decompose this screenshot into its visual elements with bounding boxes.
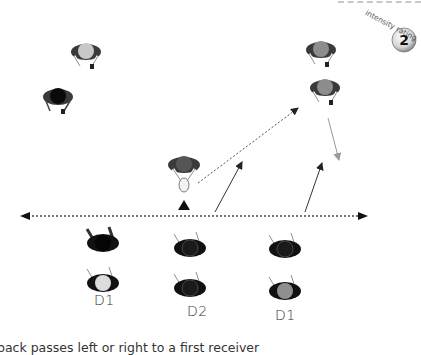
attacker-figure bbox=[306, 41, 336, 67]
run-arrow-right bbox=[305, 163, 322, 212]
ball-carrier-figure bbox=[168, 156, 200, 192]
defender-figure bbox=[269, 233, 301, 258]
defender-figure bbox=[174, 232, 206, 257]
attacker-figure bbox=[310, 79, 340, 105]
defender-figure bbox=[87, 267, 119, 292]
support-run-arrow bbox=[328, 118, 339, 160]
defender-figure bbox=[87, 227, 119, 252]
attacker-figure bbox=[43, 88, 73, 114]
defender-figure bbox=[269, 275, 301, 300]
defender-label-d1-left: D1 bbox=[94, 292, 115, 308]
defender-label-d2: D2 bbox=[187, 303, 208, 319]
gain-line-dotted-arrow bbox=[20, 212, 368, 220]
caption-text: back passes left or right to a first rec… bbox=[0, 340, 259, 355]
attacker-figure bbox=[71, 43, 101, 69]
defender-figure bbox=[174, 272, 206, 297]
run-arrow-left bbox=[215, 162, 242, 212]
pass-arrow bbox=[198, 108, 298, 183]
defender-label-d1-right: D1 bbox=[275, 307, 296, 323]
ball-marker-triangle-icon bbox=[178, 200, 190, 210]
